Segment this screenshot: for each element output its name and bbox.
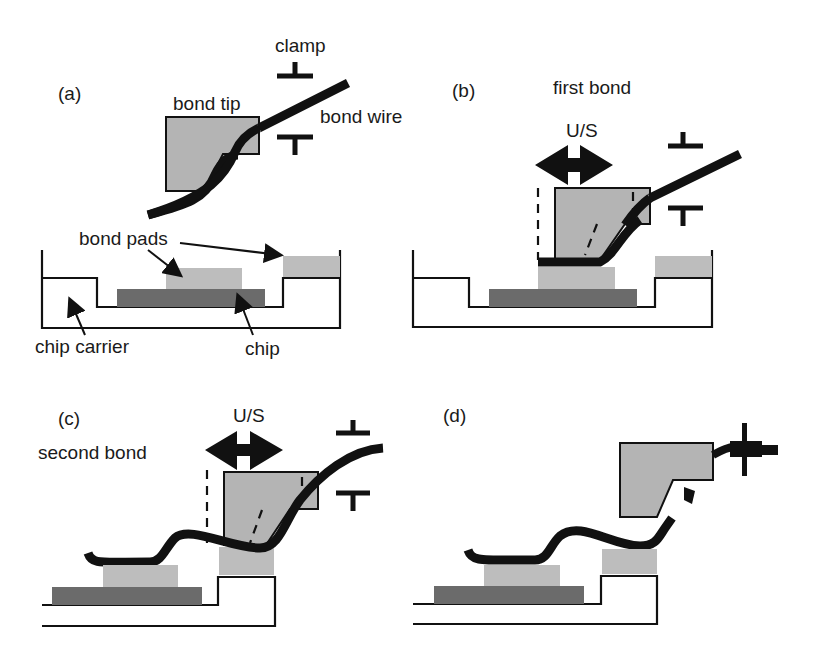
- chip-label: chip: [245, 338, 280, 359]
- ultrasonic-arrow-icon: [205, 431, 283, 470]
- bond-pads-label: bond pads: [79, 228, 168, 249]
- bond-tip: [224, 472, 318, 545]
- wire-bonding-diagram: (a) clamp bond tip bond wire bond pads c…: [0, 0, 816, 662]
- wire-tail: [684, 487, 695, 504]
- panel-label-c: (c): [58, 408, 80, 429]
- first-bond-caption: first bond: [553, 77, 631, 98]
- ultrasonic-arrow-icon: [535, 145, 613, 185]
- panel-d: (d): [413, 405, 778, 624]
- clamp-label: clamp: [275, 35, 326, 56]
- panel-a: (a) clamp bond tip bond wire bond pads c…: [35, 35, 402, 359]
- bond-wire-label: bond wire: [320, 106, 402, 127]
- bond-tip: [620, 443, 713, 517]
- bond-tip-label: bond tip: [173, 93, 241, 114]
- chip-carrier-label: chip carrier: [35, 336, 130, 357]
- panel-b: (b) first bond U/S: [413, 77, 740, 327]
- bond-pad-chip: [166, 268, 242, 289]
- bond-pad-carrier: [283, 256, 340, 277]
- clamp-icon: [713, 423, 778, 476]
- panel-label-d: (d): [443, 405, 466, 426]
- chip: [117, 289, 265, 307]
- panel-label-b: (b): [452, 80, 475, 101]
- us-label-c: U/S: [233, 405, 265, 426]
- panel-c: (c) second bond U/S: [38, 405, 383, 626]
- panel-label-a: (a): [58, 83, 81, 104]
- us-label-b: U/S: [566, 120, 598, 141]
- second-bond-caption: second bond: [38, 442, 147, 463]
